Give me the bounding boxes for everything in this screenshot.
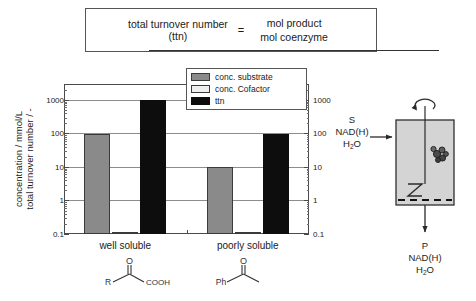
reactor-outlet-cofactor-label: NAD(H) [408,252,441,263]
legend-label-substrate: conc. substrate [215,72,273,82]
chart-legend: conc. substrateconc. Cofactorttn [186,68,307,110]
axis-minor-tick [64,151,67,152]
reactor-outlet-water-label: H2O [416,264,434,276]
category-label-well-soluble: well soluble [65,240,185,251]
formula-inner: total turnover number (ttn) = mol produc… [128,17,334,43]
category-label-poorly-soluble: poorly soluble [188,240,308,251]
formula-equals-sign: = [236,24,246,36]
y-tick-label-right: 1000 [313,95,331,104]
bar-well-soluble-cofactor [112,232,138,234]
y-axis-label-line2: total turnover number / - [25,108,36,209]
bar-poorly-soluble-ttn [263,134,289,235]
y-tick-label-left: 1000 [46,95,64,104]
structure-acetophenone: O Ph [196,258,288,294]
axis-minor-tick [64,135,67,136]
legend-item-ttn: ttn [191,95,302,107]
axis-minor-tick [307,204,310,205]
axis-minor-tick [307,137,310,138]
axis-minor-tick [64,137,67,138]
legend-item-cofactor: conc. Cofactor [191,83,302,95]
legend-swatch-cofactor [191,85,210,93]
y-axis-label: concentration / mmol/L total turnover nu… [12,84,38,234]
axis-minor-tick [307,141,310,142]
axis-minor-tick [307,157,310,158]
axis-minor-tick [64,90,67,91]
axis-minor-tick [307,180,310,181]
acetophenone-carbonyl-o: O [240,258,247,266]
axis-minor-tick [64,123,67,124]
formula-numerator: mol product [261,17,328,30]
bar-poorly-soluble-cofactor [235,232,261,234]
acetophenone-ph-group: Ph [216,277,227,287]
axis-minor-tick [307,123,310,124]
axis-minor-tick [64,204,67,205]
axis-minor-tick [307,190,310,191]
axis-minor-tick [64,185,67,186]
structure-keto-acid: O R COOH [78,258,182,294]
bar-well-soluble-substrate [84,134,110,235]
axis-minor-tick [64,190,67,191]
legend-swatch-substrate [191,73,210,81]
axis-minor-tick [64,214,67,215]
axis-minor-tick [307,174,310,175]
reactor-inlet-cofactor-label: NAD(H) [335,126,368,137]
axis-minor-tick [307,170,310,171]
y-tick-label-right: 1 [313,196,317,205]
axis-minor-tick [64,206,67,207]
formula-fraction: mol product mol coenzyme [254,17,334,43]
legend-item-substrate: conc. substrate [191,71,302,83]
y-axis-ticks-left: 0.11101001000 [38,84,64,234]
axis-minor-tick [307,110,310,111]
axis-minor-tick [64,139,67,140]
keto-acid-cooh: COOH [146,278,170,287]
reactor-inlet-water-label: H2O [343,138,361,150]
axis-minor-tick [307,151,310,152]
axis-minor-tick [307,169,310,170]
axis-minor-tick [64,103,67,104]
axis-minor-tick [64,110,67,111]
y-tick-label-right: 0.1 [313,230,324,239]
fraction-bar [149,50,439,51]
axis-minor-tick [307,202,310,203]
formula-denominator: mol coenzyme [254,30,334,43]
axis-minor-tick [307,139,310,140]
axis-minor-tick [64,202,67,203]
reactor-outlet-product-label: P [422,240,428,251]
axis-minor-tick [64,177,67,178]
formula-lhs-line1: total turnover number [128,18,228,30]
axis-minor-tick [307,218,310,219]
formula-left-side: total turnover number (ttn) [128,18,228,42]
y-tick-label-left: 100 [51,129,64,138]
legend-label-cofactor: conc. Cofactor [215,84,270,94]
axis-minor-tick [307,208,310,209]
axis-minor-tick [64,105,67,106]
bar-well-soluble-ttn [140,100,166,234]
axis-minor-tick [64,172,67,173]
reactor-schematic: S NAD(H) H2O P NAD(H) H2O [334,92,476,297]
y-tick-label-left: 10 [55,162,64,171]
axis-minor-tick [307,113,310,114]
axis-minor-tick [64,211,67,212]
axis-major-tick [64,234,69,235]
axis-minor-tick [307,214,310,215]
axis-minor-tick [64,118,67,119]
axis-minor-tick [307,118,310,119]
x-axis-tick [187,230,188,234]
legend-swatch-ttn [191,97,210,105]
axis-minor-tick [64,174,67,175]
axis-major-tick [304,234,309,235]
axis-minor-tick [64,180,67,181]
formula-lhs-line2: (ttn) [169,30,188,42]
axis-minor-tick [64,102,67,103]
axis-minor-tick [307,185,310,186]
keto-acid-carbonyl-o: O [126,258,133,266]
y-tick-label-right: 100 [313,129,326,138]
axis-minor-tick [307,147,310,148]
axis-minor-tick [64,170,67,171]
bar-poorly-soluble-substrate [207,167,233,234]
axis-minor-tick [64,147,67,148]
axis-minor-tick [307,135,310,136]
axis-minor-tick [64,113,67,114]
axis-minor-tick [64,224,67,225]
axis-minor-tick [307,177,310,178]
